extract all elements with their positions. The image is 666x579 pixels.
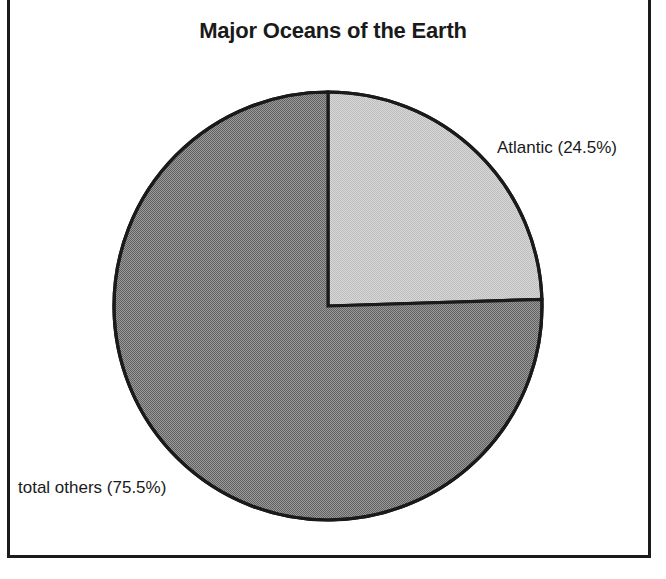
pie-label-atlantic: Atlantic (24.5%) [497, 138, 617, 158]
pie-svg [111, 89, 545, 523]
pie-label-total-others: total others (75.5%) [18, 478, 166, 498]
pie-chart-figure: Major Oceans of the Earth [0, 0, 666, 579]
pie-slice-atlantic[interactable] [328, 92, 542, 306]
pie-graphic [111, 89, 545, 523]
chart-title: Major Oceans of the Earth [0, 18, 666, 44]
